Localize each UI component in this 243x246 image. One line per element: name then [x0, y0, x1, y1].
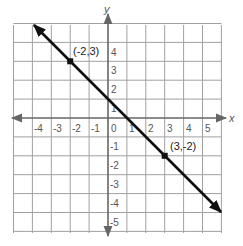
coordinate-plane: x y -4 -3 -2 -1 0 1 2 3 4 5 4 3 2 1 -1 -…	[0, 0, 243, 246]
y-tick-labels: 4 3 2 1 -1 -2 -3 -4 -5	[110, 47, 119, 228]
y-tick: -1	[110, 141, 119, 152]
x-tick: 2	[148, 123, 154, 134]
point-marker-2	[162, 153, 168, 159]
y-tick: -5	[110, 217, 119, 228]
x-tick: 4	[186, 123, 192, 134]
y-tick: -2	[110, 160, 119, 171]
x-tick-labels: -4 -3 -2 -1 0 1 2 3 4 5	[34, 123, 211, 134]
x-tick: -1	[91, 123, 100, 134]
point-marker-1	[67, 58, 73, 64]
x-tick: 3	[167, 123, 173, 134]
y-axis-label: y	[103, 3, 111, 15]
x-tick: -2	[72, 123, 81, 134]
x-tick: 0	[111, 123, 117, 134]
y-tick: -3	[110, 179, 119, 190]
x-axis-label: x	[228, 112, 235, 124]
x-tick: -4	[34, 123, 43, 134]
y-tick: 3	[111, 65, 117, 76]
point-label-2: (3,-2)	[170, 140, 196, 152]
point-label-1: (-2,3)	[73, 45, 99, 57]
x-tick: -3	[53, 123, 62, 134]
y-tick: -4	[110, 198, 119, 209]
x-tick: 5	[205, 123, 211, 134]
y-tick: 2	[111, 84, 117, 95]
y-tick: 4	[111, 47, 117, 58]
